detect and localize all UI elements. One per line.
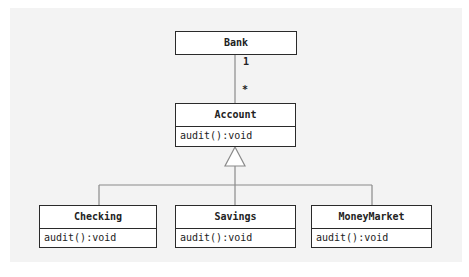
- class-moneymarket[interactable]: MoneyMarket audit():void: [311, 205, 432, 248]
- class-name: Account: [176, 104, 295, 126]
- class-operation: audit():void: [176, 228, 295, 248]
- class-savings[interactable]: Savings audit():void: [175, 205, 296, 248]
- multiplicity-account-end: *: [242, 84, 248, 95]
- inheritance-triangle-icon: [225, 147, 245, 166]
- multiplicity-bank-end: 1: [243, 56, 249, 67]
- class-operation: audit():void: [312, 228, 431, 248]
- class-name: MoneyMarket: [312, 206, 431, 228]
- class-name: Bank: [176, 32, 296, 54]
- class-checking[interactable]: Checking audit():void: [39, 205, 157, 248]
- class-account[interactable]: Account audit():void: [175, 103, 296, 147]
- class-operation: audit():void: [40, 228, 156, 248]
- class-name: Checking: [40, 206, 156, 228]
- class-name: Savings: [176, 206, 295, 228]
- class-operation: audit():void: [176, 126, 295, 146]
- class-bank[interactable]: Bank: [175, 31, 297, 55]
